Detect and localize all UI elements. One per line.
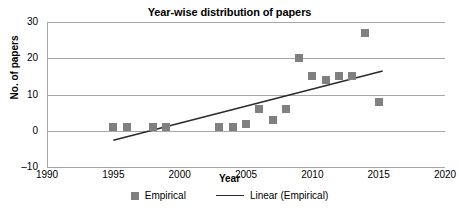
data-point-marker bbox=[149, 123, 157, 131]
data-point-marker bbox=[361, 29, 369, 37]
data-point-marker bbox=[322, 76, 330, 84]
gridline bbox=[47, 167, 445, 168]
y-tick-label: 30 bbox=[0, 17, 38, 27]
line-segment-icon bbox=[216, 195, 244, 196]
data-point-marker bbox=[295, 54, 303, 62]
data-point-marker bbox=[162, 123, 170, 131]
x-axis-title: Year bbox=[0, 173, 459, 184]
data-point-marker bbox=[375, 98, 383, 106]
data-point-marker bbox=[255, 105, 263, 113]
chart-title: Year-wise distribution of papers bbox=[0, 6, 459, 18]
data-point-marker bbox=[308, 72, 316, 80]
data-point-marker bbox=[109, 123, 117, 131]
data-point-marker bbox=[229, 123, 237, 131]
y-tick-label: 20 bbox=[0, 53, 38, 63]
y-tick-label: 10 bbox=[0, 90, 38, 100]
plot-area: 1990199520002005201020152020 bbox=[47, 22, 445, 167]
data-point-marker bbox=[215, 123, 223, 131]
data-point-marker bbox=[123, 123, 131, 131]
data-point-marker bbox=[348, 72, 356, 80]
data-point-marker bbox=[269, 116, 277, 124]
legend-label-linear-empirical: Linear (Empirical) bbox=[250, 190, 328, 201]
legend-item-empirical: Empirical bbox=[131, 190, 186, 201]
legend-label-empirical: Empirical bbox=[145, 190, 186, 201]
data-point-marker bbox=[282, 105, 290, 113]
chart-legend: Empirical Linear (Empirical) bbox=[0, 190, 459, 201]
chart-container: Year-wise distribution of papers No. of … bbox=[0, 0, 459, 215]
legend-item-linear-empirical: Linear (Empirical) bbox=[216, 190, 328, 201]
trendline bbox=[47, 22, 445, 167]
data-point-marker bbox=[242, 120, 250, 128]
y-tick-label: 0 bbox=[0, 126, 38, 136]
y-axis-title: No. of papers bbox=[9, 18, 20, 118]
square-marker-icon bbox=[131, 192, 139, 200]
data-point-marker bbox=[335, 72, 343, 80]
